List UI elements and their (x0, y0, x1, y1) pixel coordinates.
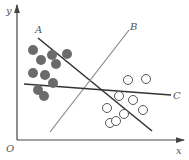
filled-point (28, 45, 38, 55)
line-b-label: B (129, 21, 137, 32)
line-a-label: A (34, 24, 42, 35)
filled-point (47, 50, 57, 60)
open-point (120, 110, 129, 119)
filled-point (39, 91, 49, 101)
filled-point (40, 70, 50, 80)
filled-point (62, 49, 72, 59)
open-point (112, 117, 121, 126)
open-point (115, 92, 124, 101)
open-point (142, 75, 151, 84)
line-c-label: C (173, 90, 181, 101)
open-point (129, 96, 138, 105)
open-class-points (103, 75, 151, 128)
filled-class-points (28, 45, 72, 101)
open-point (124, 76, 133, 85)
filled-point (51, 59, 61, 69)
filled-point (36, 55, 46, 65)
filled-point (28, 68, 38, 78)
x-axis-label: x (176, 145, 182, 156)
open-point (103, 104, 112, 113)
open-point (139, 106, 148, 115)
origin-label: O (6, 143, 14, 154)
filled-point (48, 78, 58, 88)
y-axis-label: y (5, 5, 12, 16)
scatter-diagram: y x O A B C (0, 0, 189, 160)
diagram-canvas: y x O A B C (0, 0, 189, 160)
